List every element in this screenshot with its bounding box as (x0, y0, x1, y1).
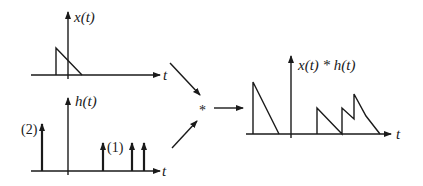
x-plot-xlabel: t (163, 67, 168, 83)
result-xlabel: t (396, 126, 401, 142)
arrow-h-to-operator (172, 121, 197, 148)
result-ylabel: x(t) * h(t) (297, 57, 355, 74)
convolution-diagram: x(t) t (2) (1) h(t) t * x(t) * h(t) t (0, 0, 423, 186)
arrow-x-to-operator (170, 63, 200, 95)
h-plot-xlabel: t (162, 163, 167, 179)
convolution-operator: * (199, 103, 206, 118)
impulse-label-2: (2) (21, 122, 38, 138)
x-plot: x(t) t (31, 9, 168, 83)
result-right-sawtooth (317, 94, 380, 134)
result-left-triangle (253, 82, 279, 134)
result-plot: x(t) * h(t) t (246, 56, 401, 142)
h-plot-ylabel: h(t) (75, 93, 97, 110)
x-signal-triangle (56, 48, 82, 75)
x-plot-ylabel: x(t) (73, 9, 95, 26)
impulse-label-1: (1) (107, 140, 124, 156)
h-plot: (2) (1) h(t) t (21, 93, 167, 179)
